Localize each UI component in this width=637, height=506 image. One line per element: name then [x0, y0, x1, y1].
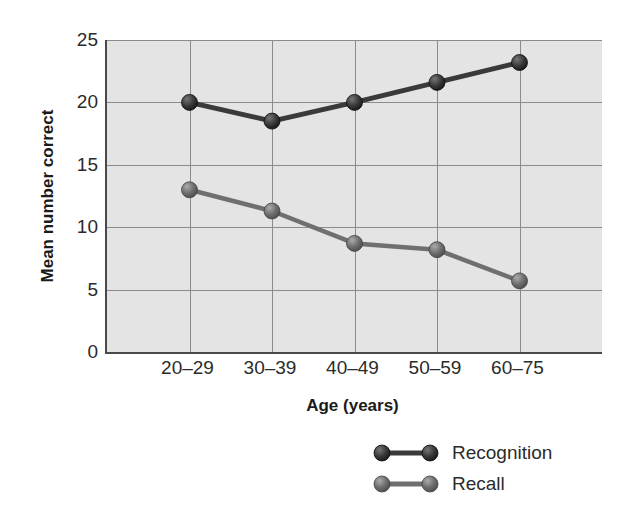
- x-tick-label: 60–75: [473, 358, 563, 377]
- x-tick-label: 30–39: [225, 358, 315, 377]
- y-tick-label: 25: [54, 30, 98, 49]
- legend-item: Recall: [370, 468, 620, 499]
- y-tick-label: 5: [54, 280, 98, 299]
- y-tick-label: 15: [54, 155, 98, 174]
- chart-legend: RecognitionRecall: [370, 437, 620, 499]
- x-tick-label: 40–49: [308, 358, 398, 377]
- legend-marker-icon: [370, 440, 442, 466]
- legend-item: Recognition: [370, 437, 620, 468]
- y-tick-label: 0: [54, 342, 98, 361]
- legend-label: Recognition: [442, 443, 552, 462]
- x-axis-tick-labels: 20–2930–3940–4950–5960–75: [105, 358, 600, 386]
- data-point-marker: [182, 182, 198, 198]
- series-line: [190, 63, 520, 122]
- data-point-marker: [429, 242, 445, 258]
- data-point-marker: [347, 235, 363, 251]
- data-point-marker: [512, 55, 528, 71]
- plot-area: [105, 40, 602, 354]
- data-point-marker: [264, 113, 280, 129]
- line-chart-figure: Mean number correct 2520151050 20–2930–3…: [0, 0, 637, 506]
- data-point-marker: [429, 74, 445, 90]
- x-tick-label: 50–59: [390, 358, 480, 377]
- data-point-marker: [512, 273, 528, 289]
- data-point-marker: [182, 94, 198, 110]
- y-tick-label: 10: [54, 217, 98, 236]
- legend-marker-icon: [370, 471, 442, 497]
- data-point-marker: [264, 203, 280, 219]
- y-tick-label: 20: [54, 92, 98, 111]
- x-axis-title: Age (years): [105, 396, 600, 416]
- data-point-marker: [347, 94, 363, 110]
- y-axis-tick-labels: 2520151050: [45, 0, 98, 506]
- plot-series-svg: [107, 40, 602, 352]
- x-tick-label: 20–29: [143, 358, 233, 377]
- legend-label: Recall: [442, 474, 505, 493]
